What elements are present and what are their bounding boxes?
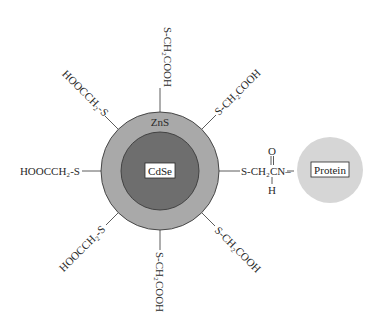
ligand-bottom-left: HOOCCH₂-S — [56, 223, 107, 274]
carbonyl-oxygen: O — [268, 145, 276, 157]
ligand-top-right: S-CH₂COOH — [212, 66, 263, 117]
protein-label: Protein — [314, 164, 346, 176]
qd-diagram: ZnS CdSe Protein S-CH₂CN– O H HOOCCH₂-S … — [0, 0, 378, 330]
shell-label: ZnS — [151, 116, 169, 128]
ligand-top: S-CH₂COOH — [162, 27, 174, 87]
amide-hydrogen: H — [268, 184, 276, 196]
ligand-left: HOOCCH₂-S — [20, 165, 80, 177]
core-label: CdSe — [148, 165, 172, 177]
ligand-bottom-right: S-CH₂COOH — [213, 224, 264, 275]
ligand-bottom: S-CH₂COOH — [154, 252, 166, 312]
ligand-top-left: HOOCCH₂-S — [60, 67, 111, 118]
ligand-right-link: S-CH₂CN– — [241, 165, 291, 177]
